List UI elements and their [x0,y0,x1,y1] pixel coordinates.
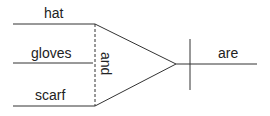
word-are: are [218,45,238,61]
sentence-diagram: hat gloves scarf and are [0,0,270,116]
word-gloves: gloves [31,45,71,61]
word-and: and [98,52,114,75]
word-scarf: scarf [35,87,65,103]
word-hat: hat [44,5,64,21]
